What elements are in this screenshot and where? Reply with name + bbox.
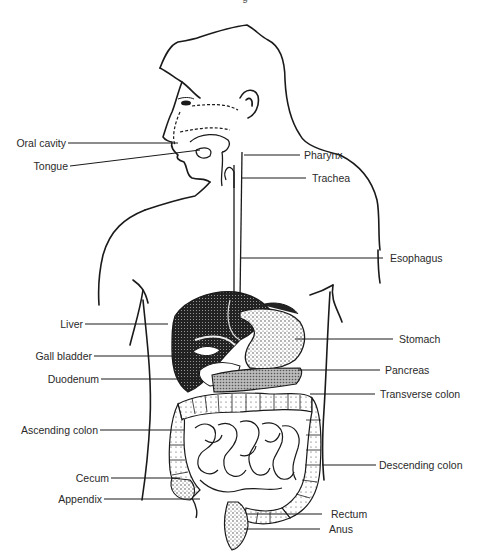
label-tongue: Tongue: [4, 160, 68, 172]
digestive-system-diagram: g: [0, 0, 486, 558]
label-anus: Anus: [329, 523, 353, 535]
label-pharynx: Pharynx: [304, 149, 343, 161]
cecum: [171, 478, 195, 500]
nasal-cavity: [174, 105, 238, 145]
label-transverse-colon: Transverse colon: [380, 388, 460, 400]
label-rectum: Rectum: [331, 508, 367, 520]
label-gall-bladder: Gall bladder: [4, 350, 92, 362]
label-oral-cavity: Oral cavity: [4, 137, 66, 149]
small-intestine: [195, 421, 299, 492]
label-stomach: Stomach: [399, 333, 440, 345]
eye: [178, 98, 194, 106]
label-ascending-colon: Ascending colon: [2, 424, 98, 436]
label-pancreas: Pancreas: [385, 364, 429, 376]
label-descending-colon: Descending colon: [379, 459, 462, 471]
rectum: [225, 502, 248, 550]
appendix: [192, 498, 197, 518]
label-esophagus: Esophagus: [390, 252, 443, 264]
stomach: [240, 309, 305, 369]
large-intestine: [169, 393, 321, 524]
label-trachea: Trachea: [312, 172, 350, 184]
label-duodenum: Duodenum: [4, 373, 99, 385]
label-appendix: Appendix: [4, 493, 102, 505]
body-outline: [99, 25, 380, 500]
label-liver: Liver: [4, 318, 83, 330]
esophagus-trachea: [225, 152, 245, 310]
label-cecum: Cecum: [4, 472, 109, 484]
